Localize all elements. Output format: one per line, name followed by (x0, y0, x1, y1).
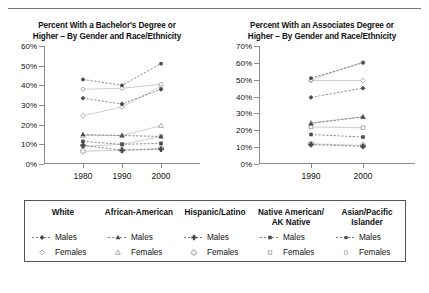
x-tick (311, 164, 312, 168)
circle-marker-icon (335, 232, 357, 243)
legend-group-header: Asian/PacificIslander (329, 208, 405, 228)
y-tick-label: 60% (21, 42, 37, 51)
legend-item-label: Males (359, 233, 381, 242)
triangle-marker-icon (107, 247, 129, 258)
legend-column-white: White MalesFemales (25, 201, 101, 261)
legend-column-hispanic-latino: Hispanic/Latino MalesFemales (177, 201, 253, 261)
legend-item-label: Females (131, 248, 162, 257)
legend-group-header-spacer (179, 218, 251, 228)
legend-group-header-line-2: Islander (331, 218, 403, 228)
legend-group-header-line-1: White (27, 208, 99, 218)
legend-column-native-american-: Native American/AK NativeMalesFemales (253, 201, 329, 261)
legend-item-females[interactable]: Females (101, 246, 177, 258)
legend-item-label: Females (283, 248, 314, 257)
legend-item-label: Males (283, 233, 305, 242)
x-tick-label: 1980 (74, 171, 93, 181)
y-tick-label: 50% (236, 75, 252, 84)
plot-area-bachelors: 0%10%20%30%40%50%60%198019902000 (44, 46, 200, 164)
chart-panel-associates: Percent With an Associates Degree or Hig… (215, 14, 429, 196)
y-tick (254, 164, 259, 165)
legend-item-label: Males (55, 233, 77, 242)
legend-column-asian-pacific: Asian/PacificIslanderMalesFemales (329, 201, 405, 261)
top-divider (8, 8, 421, 9)
legend-item-label: Females (207, 248, 238, 257)
y-tick-label: 50% (21, 61, 37, 70)
y-tick (254, 63, 259, 64)
x-tick (161, 164, 162, 168)
y-tick (39, 85, 44, 86)
y-tick-label: 20% (236, 126, 252, 135)
diamond-marker-icon (31, 232, 53, 243)
y-tick-label: 0% (240, 160, 252, 169)
chart-title-line-2: Higher – By Gender and Race/Ethnicity (223, 31, 421, 42)
legend-item-males[interactable]: Males (253, 231, 329, 243)
x-tick-label: 2000 (354, 171, 373, 181)
legend-group-header-line-1: Asian/Pacific (331, 208, 403, 218)
y-tick-label: 40% (236, 92, 252, 101)
x-tick-label: 1990 (113, 171, 132, 181)
plot-area-associates: 0%10%20%30%40%50%60%70%19902000 (259, 46, 415, 164)
y-tick-label: 0% (25, 160, 37, 169)
legend-group-header: Native American/AK Native (253, 208, 329, 228)
legend-group-header-spacer (27, 218, 99, 228)
chart-title-associates: Percent With an Associates Degree or Hig… (223, 20, 421, 42)
x-tick (122, 164, 123, 168)
series-native-american-ak-native-males (81, 140, 163, 146)
legend-group-header-spacer (103, 218, 175, 228)
chart-panel-bachelors: Percent With a Bachelor's Degree or High… (0, 14, 214, 196)
legend-item-label: Females (55, 248, 86, 257)
x-tick-label: 2000 (152, 171, 171, 181)
y-tick-label: 70% (236, 42, 252, 51)
square-marker-icon (259, 232, 281, 243)
triangle-marker-icon (107, 232, 129, 243)
legend-group-header: White (25, 208, 101, 228)
y-tick-label: 60% (236, 58, 252, 67)
legend-item-females[interactable]: Females (25, 246, 101, 258)
legend-item-label: Males (131, 233, 153, 242)
y-tick-label: 30% (236, 109, 252, 118)
y-tick (39, 144, 44, 145)
series-layer-bachelors (44, 46, 200, 164)
y-tick-label: 10% (236, 143, 252, 152)
y-tick (39, 164, 44, 165)
legend-item-females[interactable]: Females (329, 246, 405, 258)
y-tick (39, 125, 44, 126)
series-asian-pacific-islander-females (309, 60, 365, 81)
y-tick (254, 147, 259, 148)
y-tick-label: 40% (21, 81, 37, 90)
chart-title-line-2: Higher – By Gender and Race/Ethnicity (8, 31, 206, 42)
chart-title-bachelors: Percent With a Bachelor's Degree or High… (8, 20, 206, 42)
series-native-american-ak-native-males (309, 133, 365, 139)
series-white-males (309, 86, 366, 100)
legend-item-females[interactable]: Females (177, 246, 253, 258)
legend-item-males[interactable]: Males (25, 231, 101, 243)
legend-item-females[interactable]: Females (253, 246, 329, 258)
legend-item-label: Males (207, 233, 229, 242)
y-tick (39, 105, 44, 106)
series-native-american-ak-native-females (309, 125, 365, 129)
chart-legend: White MalesFemalesAfrican-American Males… (24, 200, 406, 262)
y-tick (39, 46, 44, 47)
legend-group-header: Hispanic/Latino (177, 208, 253, 228)
legend-item-males[interactable]: Males (177, 231, 253, 243)
legend-group-header-line-1: Hispanic/Latino (179, 208, 251, 218)
series-asian-pacific-islander-males (81, 62, 163, 87)
legend-item-males[interactable]: Males (101, 231, 177, 243)
charts-container: Percent With a Bachelor's Degree or High… (0, 14, 429, 196)
series-layer-associates (259, 46, 415, 164)
cross-marker-icon (183, 247, 205, 258)
diamond-marker-icon (31, 247, 53, 258)
legend-group-header: African-American (101, 208, 177, 228)
legend-item-label: Females (359, 248, 390, 257)
legend-column-african-american: African-American MalesFemales (101, 201, 177, 261)
chart-title-line-1: Percent With an Associates Degree or (223, 20, 421, 31)
legend-group-header-line-1: African-American (103, 208, 175, 218)
legend-columns: White MalesFemalesAfrican-American Males… (25, 201, 405, 261)
y-tick (254, 130, 259, 131)
y-tick (254, 97, 259, 98)
y-tick (254, 113, 259, 114)
y-tick-label: 10% (21, 140, 37, 149)
legend-item-males[interactable]: Males (329, 231, 405, 243)
cross-marker-icon (183, 232, 205, 243)
y-tick-label: 30% (21, 101, 37, 110)
